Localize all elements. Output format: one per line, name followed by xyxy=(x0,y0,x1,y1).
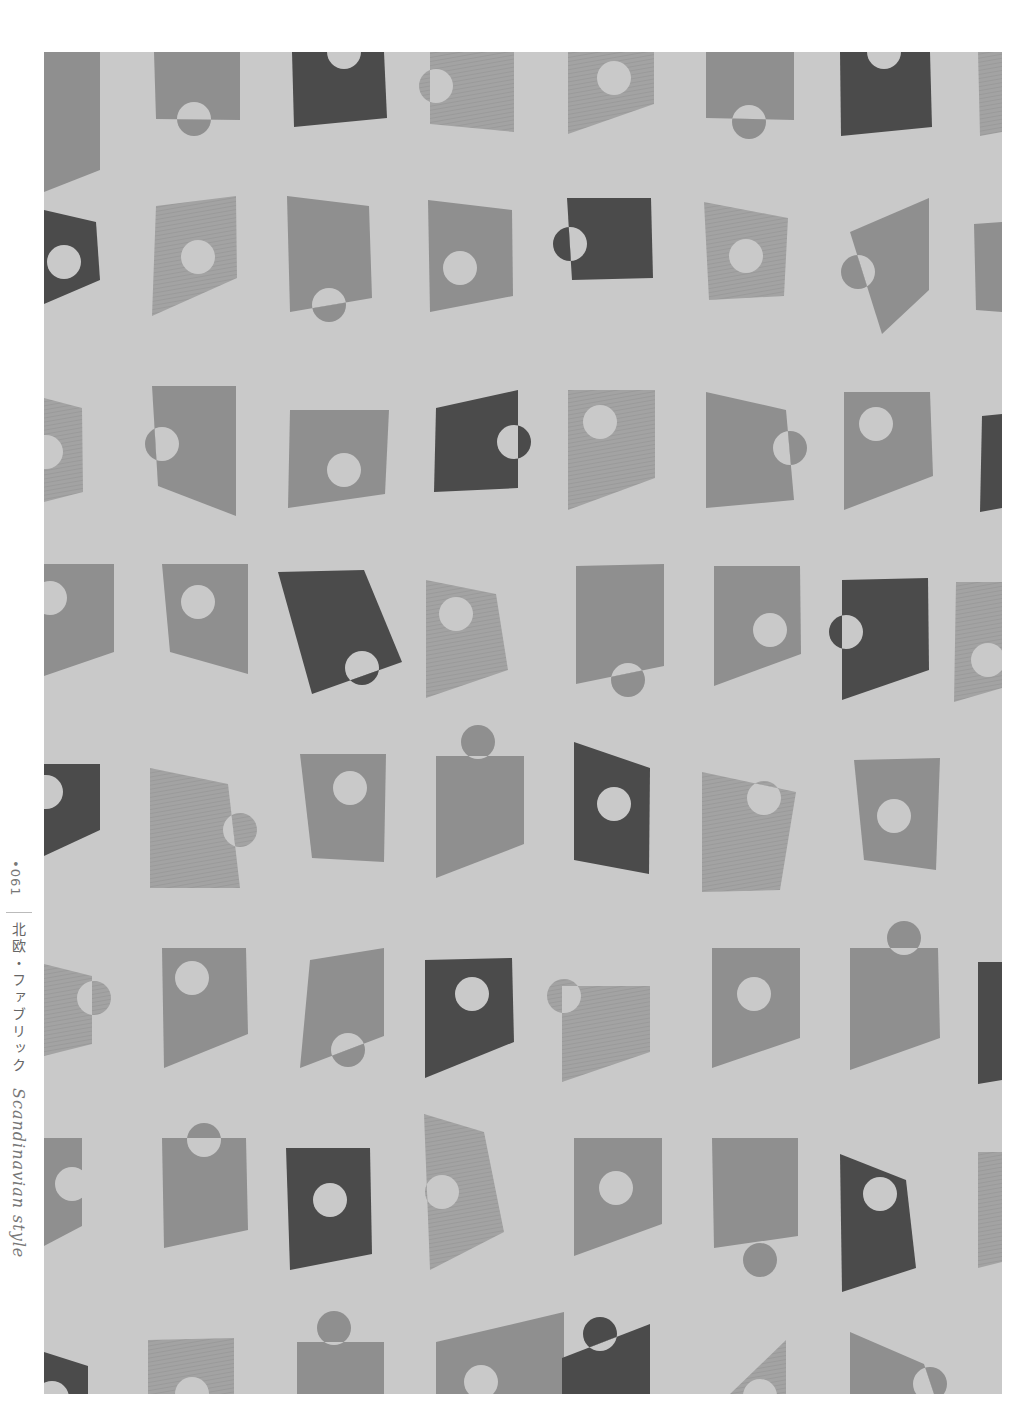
circle-cutout xyxy=(181,240,215,274)
fabric-patch xyxy=(840,52,932,136)
fabric-patch xyxy=(44,764,100,856)
circle-half xyxy=(553,227,587,261)
fabric-patch xyxy=(706,52,794,139)
circle-half xyxy=(331,1033,365,1067)
circle-cutout xyxy=(333,771,367,805)
fabric-patch xyxy=(702,772,796,892)
fabric-patch xyxy=(428,200,513,312)
fabric-patch xyxy=(148,1338,234,1394)
circle-half xyxy=(187,1123,221,1157)
fabric-patch xyxy=(978,962,1002,1084)
fabric-patch xyxy=(568,52,654,134)
fabric-patch xyxy=(278,570,402,694)
circle-half xyxy=(145,427,179,461)
fabric-patch xyxy=(150,768,257,888)
fabric-patch xyxy=(712,1138,798,1277)
fabric-patch xyxy=(44,564,114,676)
fabric-patch xyxy=(44,398,83,502)
fabric-patch xyxy=(850,1332,947,1394)
fabric-patch xyxy=(706,392,807,508)
fabric-patch xyxy=(829,578,929,700)
circle-cutout xyxy=(47,245,81,279)
circle-half xyxy=(583,1317,617,1351)
fabric-patch xyxy=(44,1352,88,1394)
fabric-patch xyxy=(297,1311,384,1394)
fabric-patch xyxy=(436,1312,564,1394)
circle-half xyxy=(177,102,211,136)
circle-cutout xyxy=(859,407,893,441)
circle-cutout xyxy=(55,1167,89,1201)
section-title-english: Scandinavian style xyxy=(9,1088,28,1258)
fabric-patch xyxy=(44,964,111,1056)
fabric-patch xyxy=(152,196,237,316)
circle-cutout xyxy=(599,1171,633,1205)
circle-cutout xyxy=(877,799,911,833)
fabric-patch xyxy=(568,390,655,510)
fabric-patch xyxy=(712,948,800,1068)
circle-half xyxy=(497,425,531,459)
circle-cutout xyxy=(327,453,361,487)
circle-cutout xyxy=(597,61,631,95)
circle-cutout xyxy=(181,585,215,619)
fabric-patch xyxy=(162,1123,248,1248)
fabric-pattern-image xyxy=(44,52,1002,1394)
fabric-patch xyxy=(844,392,933,510)
fabric-patch xyxy=(288,410,389,508)
spine-caption: •061 北欧・ファブリック Scandinavian style xyxy=(0,860,40,1290)
circle-cutout xyxy=(753,613,787,647)
fabric-patch xyxy=(553,198,653,280)
circle-half xyxy=(312,288,346,322)
fabric-patch xyxy=(287,196,372,322)
fabric-patch xyxy=(841,198,929,334)
fabric-patch xyxy=(162,564,248,674)
fabric-patch xyxy=(44,52,100,192)
fabric-patch xyxy=(292,52,387,127)
fabric-patch xyxy=(978,1152,1002,1268)
circle-cutout xyxy=(439,597,473,631)
fabric-patch xyxy=(574,742,650,874)
circle-cutout xyxy=(863,1177,897,1211)
fabric-patch xyxy=(162,948,248,1068)
divider xyxy=(6,912,32,913)
fabric-patch xyxy=(44,210,100,304)
fabric-patch xyxy=(154,52,240,136)
fabric-patch xyxy=(562,1317,650,1394)
fabric-patch xyxy=(426,580,508,698)
circle-cutout xyxy=(313,1183,347,1217)
circle-cutout xyxy=(729,239,763,273)
circle-half xyxy=(419,69,453,103)
fabric-patch xyxy=(300,754,386,862)
fabric-patch xyxy=(704,202,788,300)
fabric-patch xyxy=(850,921,940,1070)
circle-half xyxy=(317,1311,351,1345)
fabric-patch xyxy=(44,1138,89,1246)
fabric-patch xyxy=(854,758,940,870)
circle-cutout xyxy=(455,977,489,1011)
circle-half xyxy=(773,431,807,465)
section-title-japanese: 北欧・ファブリック xyxy=(8,922,28,1075)
circle-cutout xyxy=(597,787,631,821)
circle-cutout xyxy=(443,251,477,285)
fabric-patch xyxy=(424,1114,504,1270)
circle-half xyxy=(887,921,921,955)
circle-half xyxy=(743,1243,777,1277)
fabric-patch xyxy=(576,564,664,697)
circle-half xyxy=(547,979,581,1013)
fabric-pattern-svg xyxy=(44,52,1002,1394)
circle-cutout xyxy=(737,977,771,1011)
circle-half xyxy=(841,255,875,289)
fabric-patch xyxy=(840,1154,916,1292)
circle-half xyxy=(611,663,645,697)
circle-half xyxy=(345,651,379,685)
fabric-patch xyxy=(286,1148,372,1270)
circle-half xyxy=(223,813,257,847)
circle-half xyxy=(461,725,495,759)
fabric-patch xyxy=(974,222,1002,312)
page-number: •061 xyxy=(8,860,23,896)
circle-half xyxy=(829,615,863,649)
fabric-patch xyxy=(714,566,801,686)
fabric-patch xyxy=(419,52,514,132)
fabric-patch xyxy=(730,1340,786,1394)
fabric-patch xyxy=(300,948,384,1068)
fabric-patch xyxy=(145,386,236,516)
